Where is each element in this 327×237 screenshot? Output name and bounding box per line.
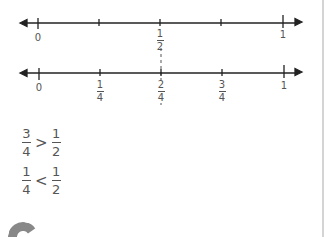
number-line-halves	[20, 15, 302, 29]
numerator: 1	[157, 29, 163, 39]
less-than-sign: <	[35, 172, 48, 190]
label-1: 1	[273, 30, 293, 40]
label-three-quarters: 3 4	[212, 80, 232, 103]
arrow-left-icon	[20, 70, 27, 77]
fraction: 12	[52, 165, 61, 196]
arrow-right-icon	[295, 69, 302, 76]
greater-than-sign: >	[35, 134, 48, 152]
numerator: 2	[158, 80, 164, 90]
denominator: 4	[219, 93, 225, 103]
fraction: 14	[22, 165, 31, 196]
label-one-quarter: 1 4	[90, 80, 110, 103]
label-0: 0	[28, 33, 48, 43]
label-1: 1	[274, 81, 294, 91]
label-one-half: 1 2	[150, 29, 170, 52]
arrow-right-icon	[295, 19, 302, 26]
label-0: 0	[29, 83, 49, 93]
comparison-quarter-lt-half: 14 < 12	[22, 165, 61, 196]
fraction: 12	[52, 127, 61, 158]
numerator: 1	[97, 80, 103, 90]
label-two-quarters: 2 4	[151, 80, 171, 103]
denominator: 2	[157, 42, 163, 52]
comparison-three-quarters-gt-half: 34 > 12	[22, 127, 61, 158]
numerator: 3	[219, 80, 225, 90]
fraction: 34	[22, 127, 31, 158]
denominator: 4	[97, 93, 103, 103]
denominator: 4	[158, 93, 164, 103]
arrow-left-icon	[20, 20, 27, 27]
